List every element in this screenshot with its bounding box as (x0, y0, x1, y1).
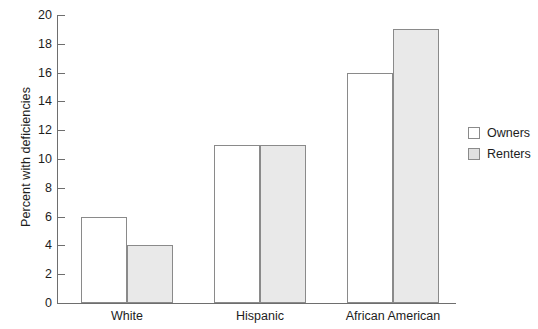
bar-chart: Percent with deficiencies 02468101214161… (0, 0, 538, 329)
y-tick-label-12: 12 (6, 124, 52, 137)
y-tick-label-10: 10 (6, 153, 52, 166)
y-tick-label-16: 16 (6, 67, 52, 80)
x-axis-label-hispanic: Hispanic (190, 309, 330, 323)
legend-item-renters[interactable]: Renters (468, 143, 531, 164)
y-axis-tick-labels: 02468101214161820 (0, 0, 52, 329)
y-tick-0 (58, 303, 65, 304)
bar-white-owners (81, 217, 127, 303)
x-axis-label-african-american: African American (323, 309, 463, 323)
legend-label-renters: Renters (487, 147, 531, 161)
bar-hispanic-owners (214, 145, 260, 303)
y-tick-label-0: 0 (6, 297, 52, 310)
legend-swatch-owners (468, 127, 480, 139)
plot-area (57, 15, 456, 303)
legend-label-owners: Owners (487, 126, 530, 140)
x-axis-line (57, 303, 456, 304)
y-tick-label-8: 8 (6, 182, 52, 195)
y-tick-label-14: 14 (6, 95, 52, 108)
chart-legend: OwnersRenters (468, 122, 531, 164)
legend-item-owners[interactable]: Owners (468, 122, 531, 143)
y-tick-label-2: 2 (6, 268, 52, 281)
bar-hispanic-renters (260, 145, 306, 303)
x-axis-label-white: White (57, 309, 197, 323)
bar-african-american-owners (347, 73, 393, 303)
y-tick-label-4: 4 (6, 239, 52, 252)
legend-swatch-renters (468, 148, 480, 160)
y-tick-label-18: 18 (6, 38, 52, 51)
bar-african-american-renters (393, 29, 439, 303)
y-tick-label-6: 6 (6, 211, 52, 224)
bar-white-renters (127, 245, 173, 303)
y-tick-label-20: 20 (6, 9, 52, 22)
